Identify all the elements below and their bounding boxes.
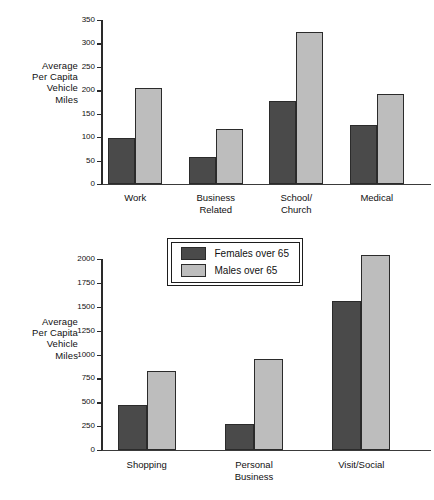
bar-females-work bbox=[108, 138, 135, 184]
y-tick bbox=[97, 184, 102, 185]
y-tick-label: 0 bbox=[91, 446, 95, 454]
bar-females-business-related bbox=[189, 157, 216, 184]
y-axis-title-bottom: Average Per Capita Vehicle Miles bbox=[12, 316, 78, 361]
bar-males-school-church bbox=[296, 32, 323, 184]
y-tick-label: 2000 bbox=[77, 255, 95, 263]
bar-males-shopping bbox=[147, 371, 176, 450]
y-tick bbox=[97, 43, 102, 44]
x-category-label: Personal Business bbox=[202, 459, 306, 482]
x-category-label: Shopping bbox=[95, 459, 199, 471]
y-tick bbox=[97, 402, 102, 403]
y-tick-label: 50 bbox=[86, 157, 95, 165]
x-category-label: Visit/Social bbox=[309, 459, 413, 471]
y-tick bbox=[97, 283, 102, 284]
bar-females-medical bbox=[350, 125, 377, 184]
y-tick bbox=[97, 307, 102, 308]
chart-bottom: Average Per Capita Vehicle Miles 0250500… bbox=[0, 232, 434, 500]
y-tick bbox=[97, 426, 102, 427]
y-tick bbox=[97, 450, 102, 451]
y-tick-label: 1000 bbox=[77, 351, 95, 359]
bar-males-medical bbox=[377, 94, 404, 184]
y-tick-label: 100 bbox=[82, 133, 95, 141]
y-tick bbox=[97, 20, 102, 21]
x-axis-line bbox=[101, 184, 431, 185]
bar-males-work bbox=[135, 88, 162, 184]
y-tick-label: 300 bbox=[82, 39, 95, 47]
y-tick-label: 350 bbox=[82, 16, 95, 24]
plot-area-top: 050100150200250300350WorkBusiness Relate… bbox=[101, 20, 423, 184]
y-tick-label: 250 bbox=[82, 63, 95, 71]
bar-females-shopping bbox=[118, 405, 147, 450]
bar-females-personal-business bbox=[225, 424, 254, 450]
y-tick-label: 0 bbox=[91, 180, 95, 188]
y-axis-title-top: Average Per Capita Vehicle Miles bbox=[12, 60, 78, 105]
x-category-label: Medical bbox=[325, 192, 429, 204]
y-tick bbox=[97, 161, 102, 162]
bar-males-personal-business bbox=[254, 359, 283, 450]
y-tick-label: 250 bbox=[82, 422, 95, 430]
y-tick bbox=[97, 331, 102, 332]
y-tick bbox=[97, 90, 102, 91]
y-tick bbox=[97, 259, 102, 260]
y-tick-label: 200 bbox=[82, 86, 95, 94]
y-tick-label: 500 bbox=[82, 398, 95, 406]
x-axis-line bbox=[101, 450, 431, 451]
y-tick-label: 750 bbox=[82, 374, 95, 382]
y-tick-label: 1750 bbox=[77, 279, 95, 287]
y-tick bbox=[97, 378, 102, 379]
y-tick-label: 1250 bbox=[77, 327, 95, 335]
y-tick bbox=[97, 355, 102, 356]
figure-root: Average Per Capita Vehicle Miles 0501001… bbox=[0, 0, 434, 500]
bar-males-business-related bbox=[216, 129, 243, 184]
bar-females-school-church bbox=[269, 101, 296, 184]
plot-area-bottom: 025050075010001250150017502000ShoppingPe… bbox=[101, 259, 423, 450]
y-tick bbox=[97, 67, 102, 68]
y-tick-label: 1500 bbox=[77, 303, 95, 311]
chart-top: Average Per Capita Vehicle Miles 0501001… bbox=[0, 0, 434, 228]
bar-females-visit-social bbox=[332, 301, 361, 450]
bar-males-visit-social bbox=[361, 255, 390, 450]
y-tick bbox=[97, 114, 102, 115]
y-tick-label: 150 bbox=[82, 110, 95, 118]
y-tick bbox=[97, 137, 102, 138]
